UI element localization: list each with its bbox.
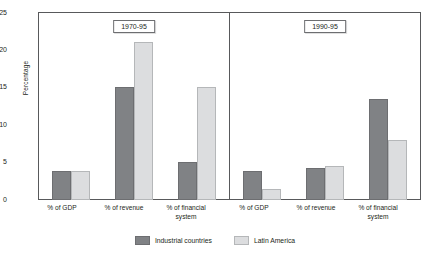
cat-label-financial-left-line1: % of financial <box>166 204 205 211</box>
cat-label-gdp-right: % of GDP <box>219 204 289 213</box>
bar-industrial-revenue-right <box>306 168 325 200</box>
bar-industrial-financial-left <box>178 162 197 200</box>
cat-label-financial-left: % of financial system <box>151 204 221 221</box>
chart-legend: Industrial countries Latin America <box>0 236 430 245</box>
bar-group-revenue-left <box>115 12 153 200</box>
panel-1970-95: 1970-95 <box>39 12 229 200</box>
bar-group-financial-right <box>369 12 407 200</box>
legend-label-latin: Latin America <box>254 237 295 244</box>
y-axis-title: Percentage <box>22 18 29 138</box>
cat-label-revenue-right: % of revenue <box>281 204 351 213</box>
legend-swatch-latin-icon <box>234 236 249 245</box>
bar-latin-revenue-right <box>325 166 344 200</box>
plot-frame-right <box>420 12 421 200</box>
legend-item-industrial: Industrial countries <box>135 236 212 245</box>
bar-latin-financial-left <box>197 87 216 200</box>
bar-latin-financial-right <box>388 140 407 200</box>
bar-group-revenue-right <box>306 12 344 200</box>
bar-industrial-gdp-left <box>52 171 71 200</box>
bar-group-gdp-right <box>243 12 281 200</box>
y-tick-label-10: 10 <box>0 121 7 128</box>
y-tick-label-0: 0 <box>0 196 7 203</box>
panel-1990-95: 1990-95 <box>230 12 420 200</box>
cat-label-financial-right: % of financial system <box>343 204 413 221</box>
cat-label-financial-right-line2: system <box>368 213 389 220</box>
cat-label-financial-left-line2: system <box>176 213 197 220</box>
legend-label-industrial: Industrial countries <box>155 237 212 244</box>
bar-latin-revenue-left <box>134 42 153 200</box>
bar-latin-gdp-left <box>71 171 90 200</box>
bar-chart: Percentage 25 20 15 10 5 0 1970-95 <box>0 0 430 258</box>
y-tick-label-5: 5 <box>0 158 7 165</box>
y-tick-label-25: 25 <box>0 9 7 16</box>
bar-latin-gdp-right <box>262 189 281 200</box>
bar-groups-right <box>230 12 420 200</box>
legend-swatch-industrial-icon <box>135 236 150 245</box>
plot-area: 1970-95 1990-95 <box>38 12 421 200</box>
bar-group-financial-left <box>178 12 216 200</box>
cat-label-financial-right-line1: % of financial <box>358 204 397 211</box>
bar-industrial-revenue-left <box>115 87 134 200</box>
cat-label-gdp-left: % of GDP <box>27 204 97 213</box>
bar-industrial-gdp-right <box>243 171 262 200</box>
bar-groups-left <box>39 12 229 200</box>
bar-industrial-financial-right <box>369 99 388 201</box>
cat-label-revenue-left: % of revenue <box>89 204 159 213</box>
bar-group-gdp-left <box>52 12 90 200</box>
y-tick-label-20: 20 <box>0 46 7 53</box>
y-tick-label-15: 15 <box>0 83 7 90</box>
legend-item-latin: Latin America <box>234 236 295 245</box>
